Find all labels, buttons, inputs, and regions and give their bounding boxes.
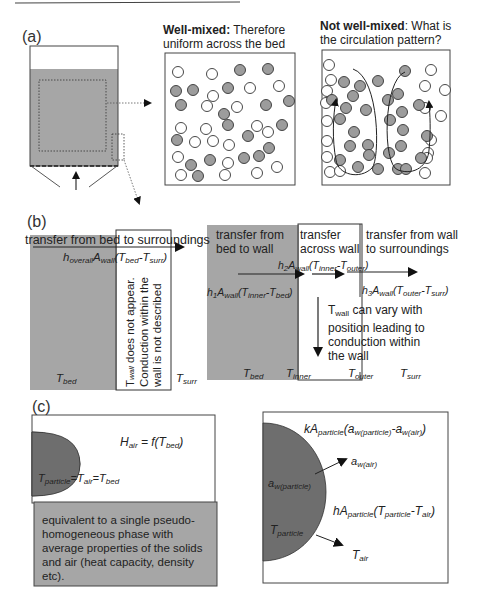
panel-c-label: (c) bbox=[32, 398, 51, 416]
pseudo-homogeneous-description: equivalent to a single pseudo-homogeneou… bbox=[42, 513, 212, 583]
panel-b-label: (b) bbox=[27, 213, 47, 231]
panel-a-label: (a) bbox=[22, 28, 42, 46]
enthalpy-air-equation: Hair = f(Tbed) bbox=[120, 436, 183, 452]
t-bed-label-lumped: Tbed bbox=[56, 372, 76, 388]
well-mixed-particles bbox=[171, 64, 295, 182]
mass-transfer-equation: kAparticle(aw(particle)-aw(air)) bbox=[304, 423, 426, 439]
not-well-mixed-title: Not well-mixed: What is bbox=[320, 20, 451, 33]
overall-transfer-equation: hoverallAwall(Tbed-Tsurr) bbox=[63, 251, 167, 267]
heat-transfer-equation: hAparticle(Tparticle-Tair) bbox=[333, 505, 435, 521]
lumped-wall-note: Twall does not appear.Conduction within … bbox=[124, 272, 164, 387]
well-mixed-title-rest: Therefore bbox=[230, 23, 285, 37]
bed-to-wall-header: transfer frombed to wall bbox=[216, 228, 284, 256]
t-bed-label: Tbed bbox=[243, 367, 263, 383]
wall-to-surroundings-equation: h3Awall(Touter-Tsurr) bbox=[362, 284, 448, 300]
t-surr-label: Tsurr bbox=[400, 367, 421, 383]
wall-to-surroundings-header: transfer from wallto surroundings bbox=[366, 228, 458, 256]
not-well-mixed-subtitle: the circulation pattern? bbox=[320, 34, 441, 47]
across-wall-header: transferacross wall bbox=[300, 228, 359, 256]
not-well-mixed-particles bbox=[321, 60, 451, 179]
t-air-label: Tair bbox=[352, 549, 368, 565]
temperature-equality: Tparticle=Tair=Tbed bbox=[38, 472, 119, 488]
t-outer-label: Touter bbox=[348, 367, 373, 383]
well-mixed-title-bold: Well-mixed: bbox=[163, 23, 230, 37]
across-wall-equation: h2Awall(Tinner-Touter) bbox=[278, 259, 368, 275]
well-mixed-title: Well-mixed: Therefore bbox=[163, 24, 285, 37]
t-particle-label: Tparticle bbox=[270, 524, 303, 540]
not-well-mixed-title-rest: : What is bbox=[405, 19, 452, 33]
vessel-diagram bbox=[30, 46, 150, 203]
not-well-mixed-title-bold: Not well-mixed bbox=[320, 19, 405, 33]
water-activity-air-label: aw(air) bbox=[351, 455, 377, 471]
top-rule bbox=[15, 2, 240, 3]
wall-conduction-note: Twall can vary withposition leading toco… bbox=[328, 303, 425, 363]
well-mixed-subtitle: uniform across the bed bbox=[163, 38, 285, 51]
water-activity-particle-label: aw(particle) bbox=[268, 477, 311, 493]
t-surr-label-lumped: Tsurr bbox=[176, 372, 197, 388]
bed-to-surroundings-header: transfer from bed to surroundings bbox=[25, 234, 210, 247]
t-inner-label: Tinner bbox=[286, 367, 311, 383]
bed-to-wall-equation: h1Awall(Tinner-Tbed) bbox=[207, 286, 293, 302]
